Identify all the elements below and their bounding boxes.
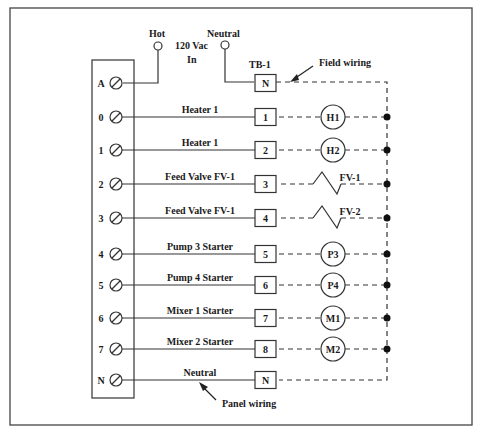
terminal-id: 2	[99, 179, 104, 190]
tb-terminal-number: 2	[263, 145, 268, 156]
junction-dot-icon	[384, 282, 391, 289]
wiring-row: 5Pump 4 Starter	[99, 272, 256, 291]
field-wiring-annotation: Field wiring	[290, 57, 371, 82]
wiring-row: 2Feed Valve FV-1	[99, 171, 256, 190]
junction-dot-icon	[384, 181, 391, 188]
device-label: H2	[327, 145, 340, 156]
terminal-id: 1	[99, 145, 104, 156]
wire-label: Mixer 2 Starter	[167, 336, 234, 347]
terminal-id: 0	[99, 112, 104, 123]
wire-label: Mixer 1 Starter	[167, 305, 234, 316]
terminal-id: N	[97, 375, 105, 386]
diagram-frame	[10, 8, 472, 425]
device-label: H1	[327, 112, 340, 123]
tb-terminal-number: 1	[263, 112, 268, 123]
junction-dot-icon	[384, 315, 391, 322]
wiring-row: NNeutral	[97, 367, 255, 386]
terminal-id: 3	[99, 213, 104, 224]
wire-label: Heater 1	[182, 137, 219, 148]
terminal-id: 7	[99, 344, 104, 355]
arrow-icon	[290, 74, 299, 82]
junction-dot-icon	[384, 215, 391, 222]
power-input: Hot 120 Vac In Neutral TB-1	[123, 28, 271, 83]
wiring-diagram: Hot 120 Vac In Neutral TB-1 Field wiring…	[0, 0, 483, 434]
tb-terminal-number: 6	[263, 280, 268, 291]
device-label: P4	[327, 280, 338, 291]
tb-terminal-number: N	[262, 375, 270, 386]
valve-coil-icon	[313, 206, 341, 228]
wiring-row: 4Pump 3 Starter	[99, 241, 256, 260]
wire-label: Neutral	[184, 367, 217, 378]
wiring-row: 3Feed Valve FV-1	[99, 205, 256, 224]
hot-wire	[123, 50, 158, 83]
device-label: FV-2	[340, 206, 361, 217]
wiring-row: 0Heater 1	[99, 104, 256, 123]
tb-terminal-number: 7	[263, 313, 268, 324]
hot-terminal-icon	[154, 42, 162, 50]
device-label: FV-1	[340, 172, 361, 183]
field-wiring-label: Field wiring	[319, 57, 371, 68]
wire-label: Heater 1	[182, 104, 219, 115]
terminal-id: 4	[99, 249, 104, 260]
terminal-id: 5	[99, 280, 104, 291]
wire-label: Feed Valve FV-1	[165, 205, 235, 216]
panel-wiring-label: Panel wiring	[222, 398, 276, 409]
neutral-terminal-icon	[221, 41, 229, 49]
device-label: M2	[326, 344, 340, 355]
valve-coil-icon	[313, 172, 341, 194]
neutral-label: Neutral	[207, 28, 240, 39]
hot-label: Hot	[149, 28, 166, 39]
wiring-row: 1Heater 1	[99, 137, 256, 156]
supply-label-1: 120 Vac	[175, 40, 209, 51]
device-label: M1	[326, 313, 340, 324]
terminal-id: 6	[99, 313, 104, 324]
junction-dot-icon	[384, 114, 391, 121]
junction-dot-icon	[384, 346, 391, 353]
supply-label-2: In	[187, 54, 197, 65]
wire-label: Pump 4 Starter	[167, 272, 234, 283]
wiring-row: A	[97, 77, 122, 89]
arrow-icon	[199, 382, 208, 391]
tb-terminal-number: N	[262, 78, 270, 89]
wiring-row: 6Mixer 1 Starter	[99, 305, 256, 324]
tb-terminal-number: 4	[263, 213, 268, 224]
terminal-id: A	[97, 78, 105, 89]
wiring-row: 7Mixer 2 Starter	[99, 336, 256, 355]
junction-dot-icon	[384, 147, 391, 154]
wire-label: Feed Valve FV-1	[165, 171, 235, 182]
junction-dot-icon	[384, 251, 391, 258]
tb-terminal-number: 8	[263, 344, 268, 355]
tb-terminal-number: 5	[263, 249, 268, 260]
wire-label: Pump 3 Starter	[167, 241, 234, 252]
tb-label: TB-1	[249, 59, 271, 70]
device-label: P3	[327, 249, 338, 260]
tb-terminal-number: 3	[263, 179, 268, 190]
